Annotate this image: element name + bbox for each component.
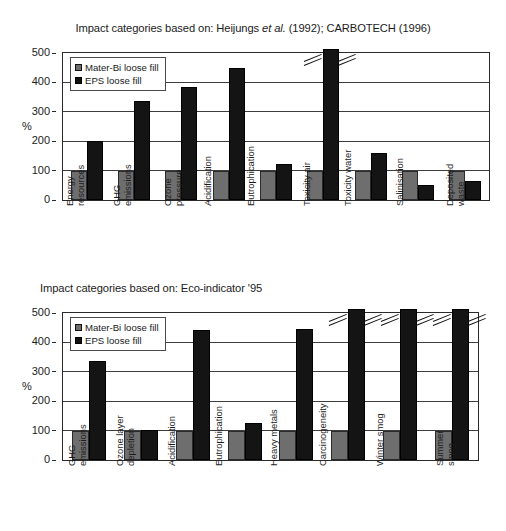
x-axis-label: Salinisation (395, 204, 443, 268)
legend-label: Mater-Bi loose fill (85, 321, 159, 334)
legend-entry-mater-bi: Mater-Bi loose fill (75, 321, 159, 334)
legend-label: Mater-Bi loose fill (85, 61, 159, 74)
x-axis-label: Summersmog (427, 464, 479, 530)
x-axis-label-text: Ozonepressure (163, 170, 184, 206)
x-axis-label-text: Salinisation (395, 158, 406, 206)
legend-swatch-icon (75, 337, 82, 344)
x-axis-label-text: Carcinogeneity (317, 403, 328, 466)
axis-break-icon (329, 312, 349, 326)
axis-break-icon (468, 312, 488, 326)
y-tick-label-100: 100 (32, 424, 56, 436)
bar (279, 431, 296, 460)
bar (371, 153, 387, 200)
x-axis-label: Toxicity water (347, 204, 395, 268)
x-axis-label-text: Acidification (203, 156, 214, 206)
bar-group (219, 313, 271, 460)
x-axis-label-text: Heavy metals (268, 409, 279, 466)
bar (400, 309, 417, 460)
chart-1-y-axis-title: % (22, 120, 32, 132)
x-axis-label-text: Eutrophication (214, 406, 225, 466)
x-axis-label-text: Summersmog (435, 431, 456, 466)
chart-1-x-axis-labels: EnergyresourcesGHGemissionsOzonepressure… (62, 204, 490, 268)
chart-1-title-italic: et al. (262, 22, 286, 34)
bar-group (252, 53, 299, 200)
x-axis-label: Heavy metals (271, 464, 323, 530)
x-axis-label: Depositedwaste (443, 204, 491, 268)
legend-label: EPS loose fill (85, 74, 142, 87)
x-axis-label-text: Winter smog (375, 413, 386, 466)
chart-1-title: Impact categories based on: Heijungs et … (0, 22, 506, 34)
x-axis-label: Energyresources (62, 204, 110, 268)
legend-label: EPS loose fill (85, 334, 142, 347)
x-axis-label: Acidification (205, 204, 253, 268)
legend-swatch-icon (75, 64, 82, 71)
x-axis-label: Toxicity air (300, 204, 348, 268)
bar (193, 330, 210, 460)
x-axis-label-text: Acidification (167, 416, 178, 466)
x-axis-label: Carcinogeneity (323, 464, 375, 530)
bar (276, 164, 292, 200)
bar (383, 431, 400, 460)
bar (245, 423, 262, 460)
legend-entry-eps: EPS loose fill (75, 74, 159, 87)
x-axis-label: Winter smog (375, 464, 427, 530)
bar (213, 171, 229, 200)
bar (176, 431, 193, 460)
chart-2-legend: Mater-Bi loose fillEPS loose fill (70, 317, 166, 351)
chart-block-heijungs: Impact categories based on: Heijungs et … (0, 0, 506, 272)
y-tick-label-400: 400 (32, 335, 56, 347)
y-tick-label-200: 200 (32, 394, 56, 406)
y-tick-label-0: 0 (44, 453, 56, 465)
bar (355, 171, 371, 200)
x-axis-label-text: Eutrophication (246, 146, 257, 206)
x-axis-label-text: Depositedwaste (445, 164, 466, 206)
chart-1-title-suffix: (1992); CARBOTECH (1996) (286, 22, 431, 34)
bar (348, 309, 365, 460)
legend-entry-mater-bi: Mater-Bi loose fill (75, 61, 159, 74)
bar (229, 68, 245, 200)
y-tick-label-0: 0 (44, 193, 56, 205)
bar (141, 430, 158, 460)
x-axis-label-text: GHGemissions (67, 424, 88, 466)
x-axis-label: GHGemissions (62, 464, 114, 530)
y-tick-label-100: 100 (32, 164, 56, 176)
chart-2-y-axis-title: % (22, 380, 32, 392)
bar (323, 49, 339, 200)
bar-group (322, 313, 374, 460)
x-axis-label-text: Toxicity water (343, 150, 354, 206)
x-axis-label: Ozonepressure (157, 204, 205, 268)
x-axis-label: Eutrophication (218, 464, 270, 530)
y-tick-label-500: 500 (32, 306, 56, 318)
y-tick-label-500: 500 (32, 46, 56, 58)
bar (331, 431, 348, 460)
bar-group (347, 53, 394, 200)
bar (89, 361, 106, 460)
y-tick-label-300: 300 (32, 365, 56, 377)
bar (228, 431, 245, 460)
bar (260, 171, 276, 200)
y-tick-label-400: 400 (32, 75, 56, 87)
chart-2-title-prefix: Impact categories based on: Eco-indicato… (40, 282, 262, 294)
chart-block-ecoindicator: Impact categories based on: Eco-indicato… (0, 272, 506, 531)
chart-1-title-prefix: Impact categories based on: Heijungs (75, 22, 262, 34)
axis-break-icon (381, 312, 401, 326)
bar (87, 141, 103, 200)
chart-2-x-axis-labels: GHGemissionsOzone layerdepletionAcidific… (62, 464, 479, 530)
x-axis-label: Ozone layerdepletion (114, 464, 166, 530)
x-axis-label-text: Toxicity air (302, 162, 313, 206)
legend-entry-eps: EPS loose fill (75, 334, 159, 347)
x-axis-label: GHGemissions (110, 204, 158, 268)
chart-1-legend: Mater-Bi loose fillEPS loose fill (70, 57, 166, 91)
chart-2-title: Impact categories based on: Eco-indicato… (0, 282, 506, 294)
x-axis-label: Acidification (166, 464, 218, 530)
bar (465, 181, 481, 200)
x-axis-label: Eutrophication (252, 204, 300, 268)
axis-break-icon (304, 52, 324, 66)
x-axis-label-text: Ozone layerdepletion (115, 415, 136, 466)
y-tick-label-300: 300 (32, 105, 56, 117)
x-axis-label-text: GHGemissions (113, 164, 134, 206)
x-axis-label-text: Energyresources (65, 165, 86, 206)
y-tick-label-200: 200 (32, 134, 56, 146)
bar (134, 101, 150, 200)
bar (296, 329, 313, 460)
